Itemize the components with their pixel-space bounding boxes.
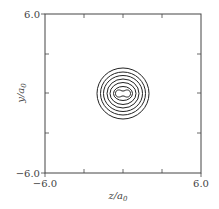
x-min-label: −6.0	[33, 178, 57, 189]
contour-lines	[97, 68, 149, 119]
y-min-label: −6.0	[16, 168, 40, 179]
y-max-label: 6.0	[24, 9, 40, 20]
y-axis-label: y/a0	[15, 83, 28, 104]
x-axis-label: z/a0	[107, 190, 128, 203]
plot-frame	[45, 14, 201, 173]
contour-plot: 6.0 −6.0 −6.0 6.0 z/a0 y/a0	[0, 0, 219, 209]
x-max-label: 6.0	[193, 178, 209, 189]
axis-ticks	[41, 14, 201, 177]
